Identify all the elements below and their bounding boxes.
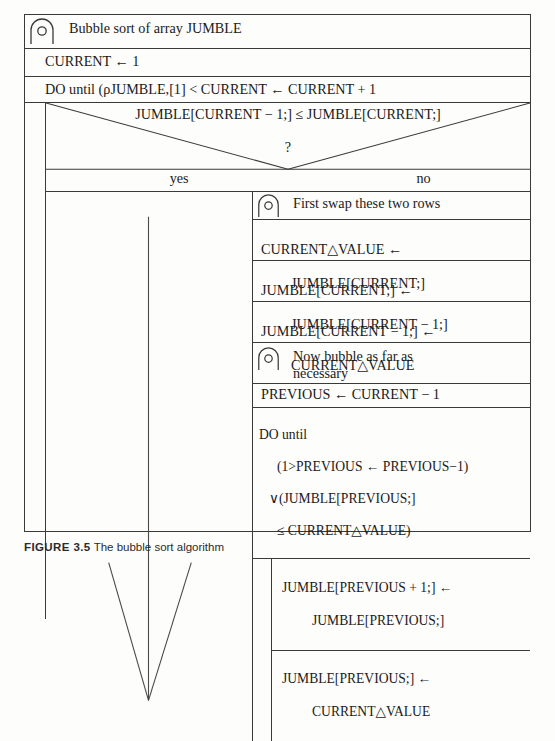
branch-columns: First swap these two rows CURRENT△VALUE … bbox=[46, 192, 530, 741]
bubble-comment-row: Now bubble as far as necessary bbox=[253, 343, 530, 384]
inner-loop-header-line-1: DO until bbox=[259, 427, 524, 443]
init-statement-text: CURRENT ← 1 bbox=[25, 49, 530, 74]
inner-loop-header-line-2: (1>PREVIOUS ← PREVIOUS−1) bbox=[259, 459, 524, 475]
diagram-title-text: Bubble sort of array JUMBLE bbox=[59, 15, 530, 48]
decision-block: JUMBLE[CURRENT − 1;] ≤ JUMBLE[CURRENT;] … bbox=[46, 103, 530, 192]
decision-question-mark: ? bbox=[46, 139, 530, 156]
inner-loop-header: DO until (1>PREVIOUS ← PREVIOUS−1) ∨(JUM… bbox=[253, 408, 530, 559]
init-statement-row: CURRENT ← 1 bbox=[25, 49, 530, 77]
comment-arch-icon bbox=[253, 192, 283, 219]
previous-init-row: PREVIOUS ← CURRENT − 1 bbox=[253, 384, 530, 408]
inner-loop-body: JUMBLE[PREVIOUS + 1;] ← JUMBLE[PREVIOUS;… bbox=[271, 559, 530, 741]
figure-caption: FIGURE 3.5 The bubble sort algorithm bbox=[24, 541, 224, 553]
inner-stmt-line-2: JUMBLE[PREVIOUS;] bbox=[282, 613, 524, 630]
no-branch-column: First swap these two rows CURRENT△VALUE … bbox=[253, 192, 530, 741]
inner-stmt-line-1: JUMBLE[PREVIOUS;] ← bbox=[282, 671, 524, 688]
decision-yes-label: yes bbox=[46, 170, 312, 187]
comment-arch-icon bbox=[25, 15, 59, 48]
inner-loop-statement-row: JUMBLE[PREVIOUS + 1;] ← JUMBLE[PREVIOUS;… bbox=[272, 559, 530, 651]
inner-stmt-line-1: JUMBLE[PREVIOUS + 1;] ← bbox=[282, 580, 524, 597]
swap-comment-row: First swap these two rows bbox=[253, 192, 530, 220]
figure-caption-label: FIGURE 3.5 bbox=[24, 541, 91, 553]
swap-step-line-1: JUMBLE[CURRENT − 1;] ← bbox=[261, 323, 524, 340]
comment-arch-icon bbox=[253, 343, 283, 383]
swap-step-row: CURRENT△VALUE ← JUMBLE[CURRENT;] bbox=[253, 220, 530, 261]
inner-stmt-line-2: CURRENT△VALUE bbox=[282, 704, 524, 721]
swap-step-row: JUMBLE[CURRENT;] ← JUMBLE[CURRENT − 1;] bbox=[253, 261, 530, 302]
yes-branch-column bbox=[46, 192, 253, 741]
nassi-shneiderman-diagram: Bubble sort of array JUMBLE CURRENT ← 1 … bbox=[24, 14, 531, 532]
swap-step-line-1: JUMBLE[CURRENT;] ← bbox=[261, 282, 524, 299]
swap-comment-text: First swap these two rows bbox=[283, 192, 530, 219]
figure-caption-text: The bubble sort algorithm bbox=[94, 541, 224, 553]
previous-init-text: PREVIOUS ← CURRENT − 1 bbox=[253, 384, 530, 407]
bubble-comment-text: Now bubble as far as necessary bbox=[283, 343, 530, 383]
diagram-title-comment-row: Bubble sort of array JUMBLE bbox=[25, 15, 530, 49]
inner-loop-statement-row: JUMBLE[PREVIOUS;] ← CURRENT△VALUE bbox=[272, 651, 530, 741]
outer-loop-header: DO until (ρJUMBLE,[1] < CURRENT ← CURREN… bbox=[25, 77, 530, 103]
decision-condition-text: JUMBLE[CURRENT − 1;] ≤ JUMBLE[CURRENT;] bbox=[46, 106, 530, 123]
inner-loop-header-line-3: ∨(JUMBLE[PREVIOUS;] bbox=[259, 491, 524, 507]
inner-loop-header-line-4: ≤ CURRENT△VALUE) bbox=[259, 523, 524, 539]
swap-step-line-1: CURRENT△VALUE ← bbox=[261, 241, 524, 258]
swap-step-row: JUMBLE[CURRENT − 1;] ← CURRENT△VALUE bbox=[253, 302, 530, 343]
decision-no-label: no bbox=[317, 170, 530, 187]
